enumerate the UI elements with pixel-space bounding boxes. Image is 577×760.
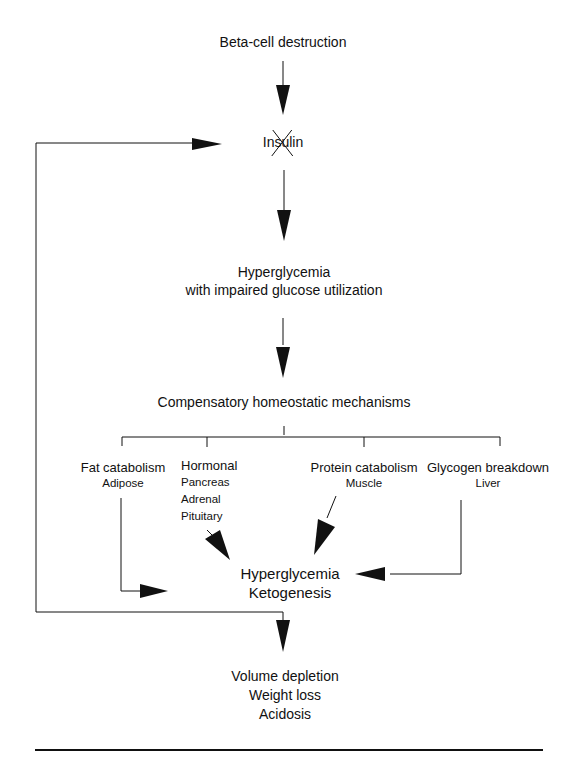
fat-catabolism-label: Fat catabolism [81, 460, 166, 476]
arrowhead-left [355, 567, 385, 581]
protein-catabolism-label: Protein catabolism [311, 460, 418, 476]
adrenal-label: Adrenal [181, 491, 237, 508]
adipose-label: Adipose [81, 476, 166, 490]
volume-depletion-label: Volume depletion [231, 667, 338, 686]
arrowhead-down [276, 85, 290, 115]
feedback-loop-line [36, 143, 283, 612]
branch-bar [122, 437, 500, 446]
hormonal-label: Hormonal [181, 458, 237, 474]
node-glycogen-breakdown: Glycogen breakdown Liver [427, 460, 549, 491]
arrowhead-down [276, 620, 290, 652]
arrowhead-right [192, 138, 222, 150]
pituitary-label: Pituitary [181, 508, 237, 525]
arrowhead-right [140, 584, 168, 598]
arrowhead-down [276, 347, 290, 378]
diagram-connectors [0, 0, 577, 760]
hyperglycemia-label-2: Hyperglycemia [240, 565, 339, 584]
cross-out-icon [270, 129, 296, 157]
arrowhead-down [277, 210, 291, 241]
node-compensatory-mechanisms: Compensatory homeostatic mechanisms [158, 394, 411, 412]
node-insulin: Insulin [263, 134, 303, 150]
liver-label: Liver [427, 476, 549, 490]
weight-loss-label: Weight loss [231, 686, 338, 705]
node-hyperglycemia-impaired: Hyperglycemia with impaired glucose util… [186, 264, 383, 299]
arrow-protein-to-hyperglycemia [327, 496, 336, 518]
muscle-label: Muscle [311, 476, 418, 490]
node-protein-catabolism: Protein catabolism Muscle [311, 460, 418, 491]
glycogen-breakdown-label: Glycogen breakdown [427, 460, 549, 476]
node-fat-catabolism: Fat catabolism Adipose [81, 460, 166, 491]
impaired-utilization-label: with impaired glucose utilization [186, 282, 383, 300]
acidosis-label: Acidosis [231, 705, 338, 724]
node-outcomes: Volume depletion Weight loss Acidosis [231, 667, 338, 724]
pancreas-label: Pancreas [181, 474, 237, 491]
arrow-fat-to-hyperglycemia [121, 498, 140, 591]
arrowhead-down-left [314, 519, 335, 555]
arrowhead-down-right [205, 530, 230, 560]
arrow-glycogen-to-hyperglycemia [390, 500, 461, 574]
hyperglycemia-label: Hyperglycemia [186, 264, 383, 282]
node-hormonal: Hormonal Pancreas Adrenal Pituitary [181, 458, 237, 525]
ketogenesis-label: Ketogenesis [240, 584, 339, 603]
node-beta-cell-destruction: Beta-cell destruction [220, 34, 347, 52]
node-hyperglycemia-ketogenesis: Hyperglycemia Ketogenesis [240, 565, 339, 603]
pathophysiology-diagram: Beta-cell destruction Insulin Hyperglyce… [0, 0, 577, 760]
